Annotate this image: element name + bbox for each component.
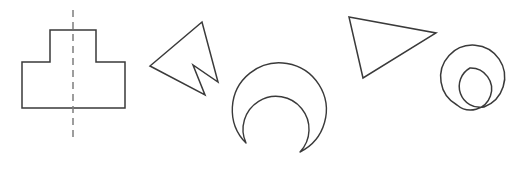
triangle-shape-outline [349, 17, 436, 78]
figure-canvas [0, 0, 515, 180]
crescent-shape-outline [232, 63, 326, 152]
snowman-shape-outline [441, 45, 505, 110]
arrow-shape-outline [150, 22, 218, 95]
shapes-svg [0, 0, 515, 180]
